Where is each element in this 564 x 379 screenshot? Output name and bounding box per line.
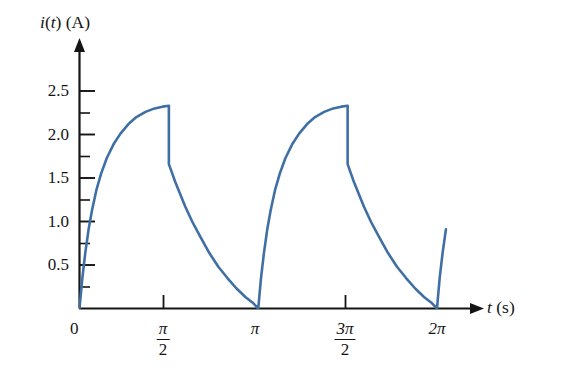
x-axis-title-var: t (487, 297, 492, 317)
x-axis-title-unit: (s) (496, 297, 514, 317)
chart-plot-area (0, 0, 564, 379)
y-tick-label-2.5: 2.5 (23, 82, 69, 99)
x-axis-arrowhead (470, 303, 484, 314)
x-tick-label-pi-over-2-numerator: π (157, 320, 170, 340)
y-axis-arrowhead (74, 38, 85, 52)
x-axis-title: t (s) (487, 299, 515, 317)
x-axis (79, 303, 484, 314)
origin-label: 0 (70, 320, 79, 337)
x-tick-label-3pi-over-2-numerator: 3π (334, 320, 355, 340)
y-tick-label-1.5: 1.5 (23, 169, 69, 186)
x-tick-label-2pi: 2π (428, 320, 445, 337)
y-axis-title-paren-close: ) (56, 12, 62, 32)
x-tick-label-pi-over-2: π 2 (157, 320, 170, 359)
y-axis-title-unit: (A) (66, 12, 90, 32)
y-axis-title: i(t) (A) (40, 14, 90, 32)
y-axis-ticks (80, 91, 96, 287)
x-tick-label-3pi-over-2: 3π 2 (334, 320, 355, 359)
y-tick-label-1.0: 1.0 (23, 213, 69, 230)
x-tick-label-pi-over-2-denominator: 2 (157, 340, 170, 359)
current-waveform-chart: i(t) (A) t (s) 2.5 2.0 1.5 1.0 0.5 0 π 2… (0, 0, 564, 379)
waveform-curve (80, 106, 446, 309)
y-tick-label-0.5: 0.5 (23, 256, 69, 273)
x-tick-label-3pi-over-2-denominator: 2 (334, 340, 355, 359)
y-tick-label-2.0: 2.0 (23, 126, 69, 143)
x-tick-label-pi: π (251, 320, 260, 337)
